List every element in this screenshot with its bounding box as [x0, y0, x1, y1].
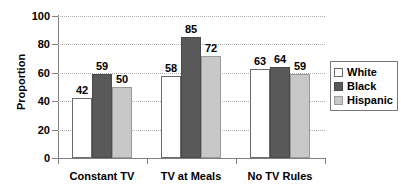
- bar-value-label: 72: [197, 43, 225, 54]
- x-tick-mark: [147, 158, 148, 164]
- bar-chart: Proportion 020406080100 4259505885726364…: [0, 0, 401, 195]
- y-tick-mark: [52, 73, 58, 74]
- y-tick-mark: [52, 101, 58, 102]
- legend-label: Black: [347, 81, 376, 92]
- y-tick-label: 60: [20, 67, 50, 78]
- bar-value-label: 59: [88, 61, 116, 72]
- y-tick-label: 40: [20, 96, 50, 107]
- x-tick-mark: [325, 158, 326, 164]
- bar-value-label: 59: [286, 61, 314, 72]
- y-tick-mark: [52, 16, 58, 17]
- bar-value-label: 50: [108, 74, 136, 85]
- bar-black-no-tv-rules: [270, 67, 290, 158]
- bar-white-tv-at-meals: [161, 76, 181, 158]
- y-axis-ticks: 020406080100: [20, 0, 50, 195]
- hispanic-swatch: [334, 96, 343, 105]
- legend-label: White: [347, 67, 377, 78]
- gridline: [58, 16, 325, 17]
- legend-label: Hispanic: [347, 95, 393, 106]
- bar-value-label: 85: [177, 24, 205, 35]
- white-swatch: [334, 68, 343, 77]
- x-axis-label-constant-tv: Constant TV: [70, 170, 135, 182]
- y-tick-label: 20: [20, 124, 50, 135]
- legend-item-hispanic[interactable]: Hispanic: [334, 93, 393, 107]
- y-tick-mark: [52, 130, 58, 131]
- bar-black-constant-tv: [92, 74, 112, 158]
- x-axis-label-tv-at-meals: TV at Meals: [161, 170, 222, 182]
- x-tick-mark: [58, 158, 59, 164]
- bar-white-no-tv-rules: [250, 69, 270, 158]
- y-tick-mark: [52, 44, 58, 45]
- bar-black-tv-at-meals: [181, 37, 201, 158]
- legend-item-white[interactable]: White: [334, 65, 393, 79]
- bar-hispanic-constant-tv: [112, 87, 132, 158]
- x-tick-mark: [236, 158, 237, 164]
- legend: WhiteBlackHispanic: [330, 61, 398, 111]
- x-axis-label-no-tv-rules: No TV Rules: [248, 170, 313, 182]
- y-tick-label: 80: [20, 39, 50, 50]
- black-swatch: [334, 82, 343, 91]
- plot-area: 425950588572636459: [58, 16, 325, 158]
- x-axis-line: [58, 158, 326, 159]
- bar-hispanic-tv-at-meals: [201, 56, 221, 158]
- legend-item-black[interactable]: Black: [334, 79, 393, 93]
- bar-hispanic-no-tv-rules: [290, 74, 310, 158]
- y-tick-label: 100: [20, 11, 50, 22]
- bar-white-constant-tv: [72, 98, 92, 158]
- y-tick-label: 0: [20, 153, 50, 164]
